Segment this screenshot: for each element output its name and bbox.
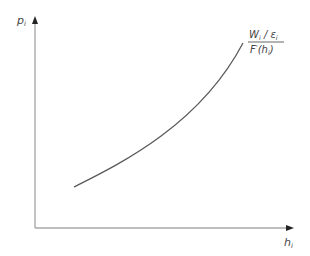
y-axis-arrow-icon xyxy=(32,16,38,24)
supply-curve xyxy=(74,43,243,187)
curve-label: Wi / εi F'(hi) xyxy=(248,29,284,57)
curve-label-numerator: Wi / εi xyxy=(249,29,278,42)
curve-label-denominator: F'(hi) xyxy=(250,44,274,57)
x-axis-label: hi xyxy=(284,236,293,250)
x-axis-arrow-icon xyxy=(286,225,294,231)
y-axis-label: pi xyxy=(16,14,26,28)
diagram-canvas: pi hi Wi / εi F'(hi) xyxy=(0,0,310,256)
